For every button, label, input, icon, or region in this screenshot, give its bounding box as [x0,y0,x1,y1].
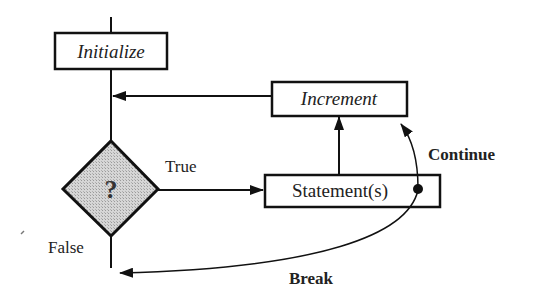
loop-flowchart: Initialize Increment ? True Statement(s)… [0,0,537,302]
true-label: True [165,157,197,176]
continue-label: Continue [428,145,496,164]
condition-node: ? [63,141,158,236]
initialize-node: Initialize [55,33,167,69]
false-label: False [48,238,84,257]
increment-node: Increment [272,82,407,116]
break-label: Break [289,269,334,288]
initialize-label: Initialize [76,41,145,62]
scan-artifact-mark [21,231,24,234]
statements-label: Statement(s) [292,180,388,202]
question-mark-label: ? [105,175,118,204]
increment-label: Increment [300,88,378,109]
